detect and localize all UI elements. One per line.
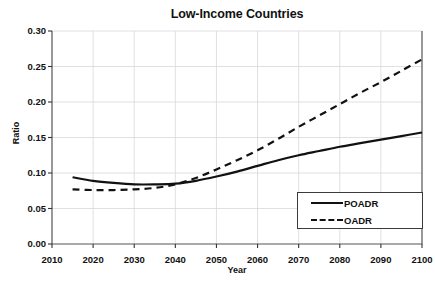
plot-area <box>0 0 435 284</box>
series-line-oadr <box>73 59 422 190</box>
legend-entry-poadr: POADR <box>298 194 424 212</box>
series-line-poadr <box>73 133 422 185</box>
legend-line-dashed-icon <box>311 214 343 226</box>
legend-label-oadr: OADR <box>344 215 372 226</box>
chart-figure: Low-Income Countries Ratio Year 0.000.05… <box>0 0 435 284</box>
chart-legend: POADR OADR <box>297 192 423 229</box>
legend-label-poadr: POADR <box>344 198 378 209</box>
legend-line-solid-icon <box>311 197 343 209</box>
legend-entry-oadr: OADR <box>298 211 424 229</box>
